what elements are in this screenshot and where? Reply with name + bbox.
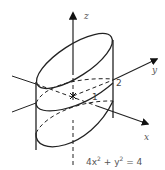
x-axis-back: [12, 76, 36, 84]
diagram-canvas: [0, 0, 165, 170]
y-intercept-label: 2: [116, 79, 122, 88]
equation-label: 4x2 + y2 = 4: [86, 156, 142, 167]
x-axis-label: x: [144, 133, 149, 142]
top-ellipse: [29, 24, 120, 99]
x-intercept-label: 1: [92, 93, 98, 102]
eq-base: 4x: [86, 157, 97, 167]
x-axis-lower-left: [12, 103, 36, 112]
y-axis-label: y: [152, 66, 157, 75]
eq-rhs: = 4: [123, 157, 142, 167]
origin-marker: [70, 92, 76, 100]
middle-ellipse-hidden: [36, 79, 113, 103]
x-axis-hidden: [36, 84, 97, 106]
y-axis: [113, 59, 157, 80]
z-axis-label: z: [84, 12, 89, 21]
elliptic-cylinder-diagram: z y x 2 1 4x2 + y2 = 4: [0, 0, 165, 170]
eq-mid: + y: [101, 157, 120, 167]
